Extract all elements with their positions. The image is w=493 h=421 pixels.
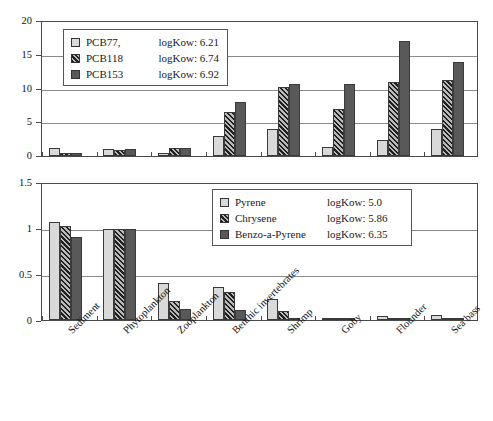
bottom-y-tick-label-0_5: 0.5 <box>6 270 32 280</box>
bar-benthic-invertebrates-pcb77 <box>213 136 224 156</box>
x-tick-5 <box>315 316 316 320</box>
legend-label-pcb153: PCB153 <box>86 68 159 80</box>
bar-goby-pcb153 <box>344 84 355 156</box>
legend-kow-chrysene: logKow: 5.86 <box>327 212 388 224</box>
bar-phytoplankton-pcb77 <box>103 149 114 156</box>
x-tick-4 <box>261 316 262 320</box>
bar-phytoplankton-pcb118 <box>114 150 125 156</box>
legend-row-pcb77: PCB77, logKow: 6.21 <box>71 34 219 50</box>
bottom-y-tick-label-1: 1 <box>6 224 32 234</box>
bar-phytoplankton-chrysene <box>114 229 125 320</box>
x-tick-2 <box>151 152 152 156</box>
bioaccumulation-figure: 20 15 10 5 0 PCB77, logKow: 6.21 PC <box>0 0 493 421</box>
bar-shrimp-pcb153 <box>289 84 300 156</box>
legend-label-chrysene: Chrysene <box>235 212 327 224</box>
bar-sea-bass-pcb118 <box>442 80 453 156</box>
bar-sea-bass-pyrene <box>431 315 442 320</box>
x-tick-3 <box>206 316 207 320</box>
legend-swatch-benzo-a-pyrene <box>220 230 229 239</box>
bar-phytoplankton-pyrene <box>103 229 114 320</box>
x-tick-0 <box>42 152 43 156</box>
x-tick-3 <box>206 152 207 156</box>
bar-sediment-pcb153 <box>71 153 82 156</box>
legend-swatch-pcb118 <box>71 54 80 63</box>
x-tick-5 <box>315 152 316 156</box>
bar-flounder-pcb118 <box>388 82 399 156</box>
x-tick-4 <box>261 152 262 156</box>
legend-kow-pcb77: logKow: 6.21 <box>159 36 220 48</box>
legend-row-pyrene: Pyrene logKow: 5.0 <box>220 194 403 210</box>
bar-phytoplankton-benzoapyrene <box>125 229 136 320</box>
legend-label-pcb118: PCB118 <box>86 52 159 64</box>
bar-group-phytoplankton <box>103 184 136 320</box>
bar-sea-bass-pcb153 <box>453 62 464 157</box>
bar-flounder-pyrene <box>377 316 388 320</box>
bar-flounder-pcb77 <box>377 140 388 156</box>
top-y-tick-label-15: 15 <box>6 50 32 60</box>
bar-sediment-pcb77 <box>49 148 60 156</box>
legend-swatch-pcb77 <box>71 38 80 47</box>
bottom-y-tick-label-0: 0 <box>6 316 32 326</box>
legend-kow-benzo-a-pyrene: logKow: 6.35 <box>327 228 388 240</box>
x-tick-1 <box>97 152 98 156</box>
bar-phytoplankton-pcb153 <box>125 149 136 156</box>
legend-row-pcb118: PCB118 logKow: 6.74 <box>71 50 219 66</box>
bottom-y-tick-0 <box>36 321 41 322</box>
bar-zooplankton-pcb153 <box>180 148 191 156</box>
legend-swatch-pcb153 <box>71 70 80 79</box>
bar-sediment-pyrene <box>49 222 60 320</box>
x-tick-6 <box>370 152 371 156</box>
bar-flounder-pcb153 <box>399 41 410 156</box>
top-y-tick-label-20: 20 <box>6 16 32 26</box>
bar-benthic-invertebrates-chrysene <box>224 292 235 320</box>
bar-sediment-chrysene <box>60 226 71 320</box>
legend-swatch-pyrene <box>220 198 229 207</box>
bar-flounder-chrysene <box>388 318 399 320</box>
bar-shrimp-chrysene <box>278 311 289 320</box>
legend-row-pcb153: PCB153 logKow: 6.92 <box>71 66 219 82</box>
legend-label-benzo-a-pyrene: Benzo-a-Pyrene <box>235 228 327 240</box>
legend-kow-pcb118: logKow: 6.74 <box>159 52 220 64</box>
bar-zooplankton-pcb77 <box>158 153 169 156</box>
bar-sea-bass-chrysene <box>442 318 453 320</box>
bar-benthic-invertebrates-pcb118 <box>224 112 235 156</box>
x-tick-7 <box>424 152 425 156</box>
x-tick-7 <box>424 316 425 320</box>
bar-sediment-pcb118 <box>60 153 71 156</box>
legend-label-pcb77: PCB77, <box>86 36 159 48</box>
legend-row-chrysene: Chrysene logKow: 5.86 <box>220 210 403 226</box>
top-y-tick-label-0: 0 <box>6 151 32 161</box>
bar-shrimp-pcb118 <box>278 87 289 156</box>
bar-group-goby <box>322 22 355 156</box>
bar-group-sediment <box>49 184 82 320</box>
bar-zooplankton-chrysene <box>169 301 180 320</box>
bar-goby-chrysene <box>333 318 344 320</box>
bottom-chart-legend: Pyrene logKow: 5.0 Chrysene logKow: 5.86… <box>212 189 412 246</box>
x-axis-labels: SedimentPhytoplanktonZooplanktonBenthic … <box>0 326 493 421</box>
x-tick-0 <box>42 316 43 320</box>
bar-group-sea-bass <box>431 184 464 320</box>
bar-sea-bass-pcb77 <box>431 129 442 156</box>
legend-kow-pyrene: logKow: 5.0 <box>327 196 382 208</box>
bar-goby-pyrene <box>322 318 333 320</box>
bar-goby-pcb77 <box>322 147 333 156</box>
bottom-y-tick-label-1_5: 1.5 <box>6 178 32 188</box>
bar-sediment-benzoapyrene <box>71 237 82 320</box>
bar-group-flounder <box>377 22 410 156</box>
bar-goby-pcb118 <box>333 109 344 156</box>
x-tick-6 <box>370 316 371 320</box>
legend-swatch-chrysene <box>220 214 229 223</box>
bar-group-sea-bass <box>431 22 464 156</box>
legend-kow-pcb153: logKow: 6.92 <box>159 68 220 80</box>
bar-benthic-invertebrates-pcb153 <box>235 102 246 156</box>
bar-group-shrimp <box>267 22 300 156</box>
legend-row-benzo-a-pyrene: Benzo-a-Pyrene logKow: 6.35 <box>220 226 403 242</box>
bar-shrimp-pcb77 <box>267 129 278 156</box>
top-y-tick-label-10: 10 <box>6 84 32 94</box>
top-chart-panel: 20 15 10 5 0 PCB77, logKow: 6.21 PC <box>0 0 493 175</box>
x-tick-2 <box>151 316 152 320</box>
top-chart-legend: PCB77, logKow: 6.21 PCB118 logKow: 6.74 … <box>63 29 228 86</box>
top-y-tick-label-5: 5 <box>6 117 32 127</box>
x-tick-1 <box>97 316 98 320</box>
bar-zooplankton-pcb118 <box>169 148 180 156</box>
